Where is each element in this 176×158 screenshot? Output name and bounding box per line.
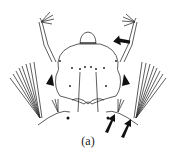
left-mouth-brush	[10, 62, 42, 118]
figure-caption: (a)	[0, 134, 176, 149]
head-capsule	[56, 44, 121, 104]
right-mouth-brush	[134, 62, 166, 118]
arrow-lower-1-icon	[105, 114, 115, 133]
figure: (a)	[0, 0, 176, 158]
left-black-patch	[46, 74, 54, 86]
left-antenna	[40, 18, 56, 62]
arrows	[105, 34, 131, 138]
labrum	[80, 32, 96, 44]
right-black-patch	[122, 74, 130, 86]
